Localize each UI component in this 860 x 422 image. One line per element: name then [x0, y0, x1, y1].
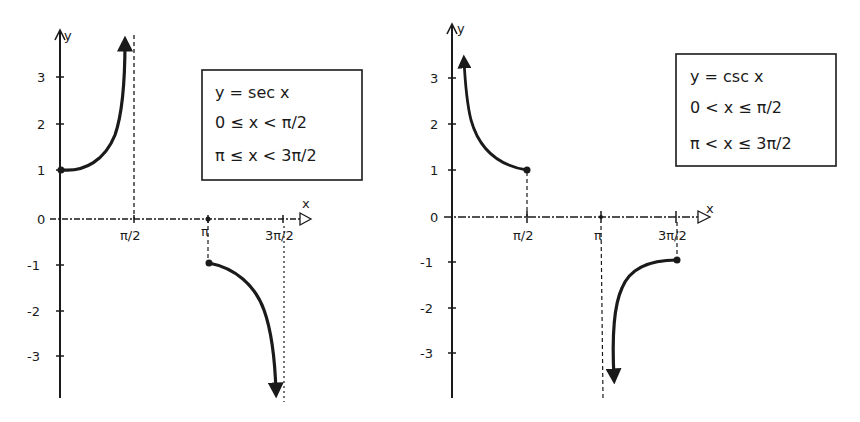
- trig-graphs-canvas: y x 3 2 1 0 -1 -2 -3 π/2 π 3π/2: [0, 0, 860, 422]
- point-3pi-over-2-neg1: [674, 257, 681, 264]
- x-axis-arrow-icon: [300, 213, 311, 225]
- y-tick-label: -3: [420, 346, 433, 361]
- sec-legend-line-2: 0 ≤ x < π/2: [215, 113, 307, 132]
- y-tick-label: 2: [430, 117, 438, 132]
- sec-legend-line-1: y = sec x: [215, 83, 290, 102]
- point-0-1: [58, 167, 65, 174]
- y-axis-label: y: [457, 21, 465, 36]
- y-tick-label: -2: [420, 301, 433, 316]
- y-tick-label: 0: [430, 210, 438, 225]
- sec-graph: y x 3 2 1 0 -1 -2 -3 π/2 π 3π/2: [27, 28, 362, 402]
- csc-legend-line-1: y = csc x: [690, 67, 764, 86]
- y-tick-label: 0: [37, 212, 45, 227]
- y-tick-label: 2: [37, 117, 45, 132]
- sec-branch-2-curve: [209, 263, 276, 392]
- point-pi-neg1: [206, 260, 213, 267]
- csc-branch-1-curve: [464, 60, 527, 170]
- x-tick-label: 3π/2: [265, 228, 294, 243]
- point-pi-over-2-1: [524, 167, 531, 174]
- csc-legend-line-2: 0 < x ≤ π/2: [690, 98, 782, 117]
- sec-legend-line-3: π ≤ x < 3π/2: [215, 146, 317, 165]
- x-tick-label: π/2: [513, 228, 533, 243]
- x-tick-label: π/2: [120, 228, 140, 243]
- y-tick-label: 1: [430, 163, 438, 178]
- asymptote-pi: [601, 226, 603, 398]
- y-tick-label: -1: [420, 255, 433, 270]
- x-axis-label: x: [706, 201, 714, 216]
- y-tick-label: -3: [27, 349, 40, 364]
- y-tick-label: -2: [27, 304, 40, 319]
- y-axis-label: y: [64, 28, 72, 43]
- y-tick-label: 1: [37, 163, 45, 178]
- csc-branch-2-curve: [613, 260, 677, 378]
- csc-graph: y x 3 2 1 0 -1 -2 -3 π/2 π 3π/2: [420, 21, 836, 398]
- x-axis-label: x: [302, 196, 310, 211]
- sec-branch-1-curve: [62, 42, 125, 170]
- x-tick-label: 3π/2: [658, 228, 687, 243]
- y-tick-label: 3: [37, 70, 45, 85]
- y-tick-label: -1: [27, 258, 40, 273]
- y-tick-label: 3: [430, 71, 438, 86]
- csc-legend-line-3: π < x ≤ 3π/2: [690, 134, 792, 153]
